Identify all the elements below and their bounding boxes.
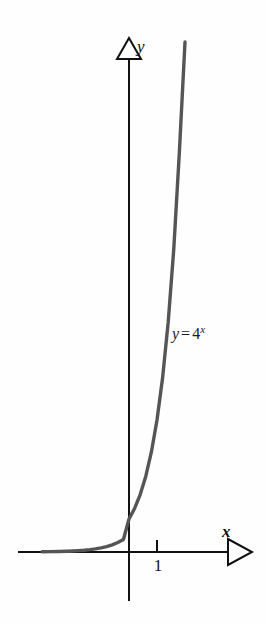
x-axis-arrowhead-icon	[228, 539, 252, 565]
x-axis-label: x	[222, 523, 231, 540]
y-axis-label: y	[137, 38, 145, 55]
equation-equals-sign: =	[179, 325, 192, 342]
exponential-curve	[42, 42, 185, 552]
equation-base: 4	[192, 325, 200, 342]
exponential-function-graph: y x 1 y=4x	[0, 0, 265, 625]
curve-equation-label: y=4x	[172, 325, 205, 343]
equation-exponent: x	[200, 323, 205, 335]
x-tick-label-1: 1	[150, 556, 166, 576]
